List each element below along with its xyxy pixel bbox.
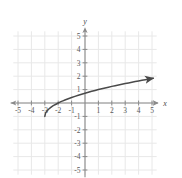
x-tick-label: 4	[137, 106, 141, 115]
y-axis-label: y	[82, 17, 87, 26]
y-tick-label: 4	[77, 45, 81, 54]
x-tick-label: -4	[28, 106, 34, 115]
x-tick-label: -2	[55, 106, 61, 115]
y-tick-label: -1	[74, 112, 80, 121]
y-tick-label: -5	[74, 166, 80, 175]
x-tick-label: 5	[150, 106, 154, 115]
x-tick-label: 3	[123, 106, 127, 115]
y-tick-label: 2	[77, 72, 81, 81]
y-tick-label: -4	[74, 152, 80, 161]
y-tick-label: -3	[74, 139, 80, 148]
x-tick-label: 2	[110, 106, 114, 115]
x-tick-label: 1	[97, 106, 101, 115]
chart-canvas: -5-4-3-2-11234554321-1-2-3-4-5 xy	[0, 0, 182, 178]
x-tick-label: -5	[15, 106, 21, 115]
y-tick-label: -2	[74, 126, 80, 135]
x-axis-label: x	[162, 99, 167, 108]
coordinate-plane-chart: -5-4-3-2-11234554321-1-2-3-4-5 xy	[0, 0, 182, 178]
y-tick-label: 5	[77, 32, 81, 41]
y-tick-label: 3	[77, 59, 81, 68]
y-tick-label: 1	[77, 85, 81, 94]
